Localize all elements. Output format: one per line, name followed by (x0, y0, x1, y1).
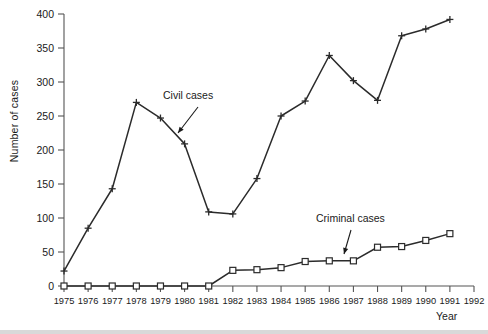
series-line-criminal-cases (64, 234, 450, 286)
data-point-marker (182, 283, 188, 289)
x-tick-label: 1978 (126, 296, 147, 306)
line-chart-plot: 050100150200250300350400 197519761977197… (0, 0, 488, 334)
annotation-arrow-head (178, 127, 184, 133)
x-tick-label: 1981 (198, 296, 219, 306)
page-edge-strip (0, 330, 488, 334)
data-point-marker (326, 258, 332, 264)
x-tick-label: 1985 (295, 296, 316, 306)
x-tick-label: 1983 (247, 296, 268, 306)
data-point-marker (133, 283, 139, 289)
series-line-civil-cases (64, 19, 450, 271)
data-point-marker (399, 244, 405, 250)
data-point-marker (230, 267, 236, 273)
y-tick-label: 300 (36, 76, 54, 88)
x-axis-tick-group: 1975197619771978197919801981198219831984… (54, 286, 485, 306)
x-tick-label: 1987 (343, 296, 364, 306)
data-point-marker (423, 237, 429, 243)
data-series-group (61, 16, 454, 289)
annotation-arrow-head (343, 248, 348, 254)
y-tick-label: 150 (36, 178, 54, 190)
series-annotation-label: Criminal cases (316, 212, 385, 224)
y-tick-label: 0 (48, 280, 54, 292)
chart-figure: Number of cases Year 0501001502002503003… (0, 0, 488, 334)
data-point-marker (278, 265, 284, 271)
x-tick-label: 1975 (54, 296, 75, 306)
data-point-marker (157, 283, 163, 289)
annotation-group: Civil casesCriminal cases (163, 89, 385, 254)
y-tick-label: 350 (36, 42, 54, 54)
x-tick-label: 1986 (319, 296, 340, 306)
data-point-marker (206, 283, 212, 289)
series-annotation-label: Civil cases (163, 89, 213, 101)
y-tick-label: 200 (36, 144, 54, 156)
x-tick-label: 1979 (150, 296, 171, 306)
x-tick-label: 1988 (367, 296, 388, 306)
y-tick-label: 100 (36, 212, 54, 224)
data-point-marker (109, 283, 115, 289)
data-point-marker (350, 258, 356, 264)
x-tick-label: 1982 (222, 296, 243, 306)
x-tick-label: 1991 (440, 296, 461, 306)
y-axis-tick-group: 050100150200250300350400 (36, 8, 64, 292)
data-point-marker (375, 244, 381, 250)
x-tick-label: 1977 (102, 296, 123, 306)
y-tick-label: 250 (36, 110, 54, 122)
x-tick-label: 1980 (174, 296, 195, 306)
x-tick-label: 1984 (271, 296, 292, 306)
x-tick-label: 1990 (415, 296, 436, 306)
data-point-marker (85, 283, 91, 289)
data-point-marker (447, 231, 453, 237)
x-tick-label: 1989 (391, 296, 412, 306)
data-point-marker (302, 259, 308, 265)
x-tick-label: 1992 (464, 296, 485, 306)
data-point-marker (61, 283, 67, 289)
data-point-marker (254, 267, 260, 273)
y-tick-label: 400 (36, 8, 54, 20)
x-tick-label: 1976 (78, 296, 99, 306)
y-tick-label: 50 (42, 246, 54, 258)
